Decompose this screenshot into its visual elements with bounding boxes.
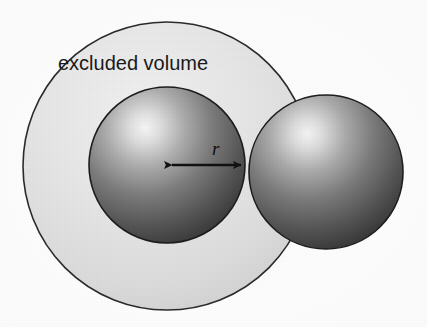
neighbor-sphere	[249, 95, 403, 249]
excluded-volume-figure: excluded volume r	[0, 0, 427, 327]
radius-symbol-label: r	[212, 138, 220, 159]
excluded-volume-label: excluded volume	[58, 52, 208, 74]
figure-canvas: excluded volume r	[0, 0, 427, 327]
